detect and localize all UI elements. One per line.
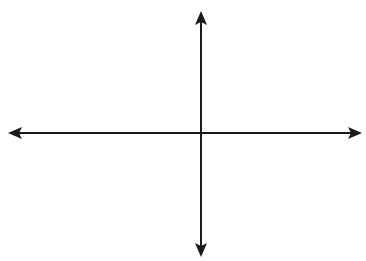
axes: [8, 11, 362, 257]
coordinate-plane: [0, 0, 366, 261]
